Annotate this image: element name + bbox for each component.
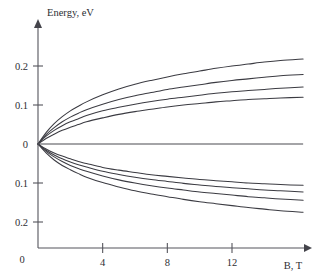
- y-tick-label-0.1: 0.1: [15, 100, 28, 111]
- y-tick-label-0.2: 0.2: [15, 61, 28, 72]
- x-tick-label-8: 8: [165, 257, 170, 268]
- curves-group: [38, 59, 303, 212]
- y-axis-title: Energy, eV: [47, 7, 94, 18]
- tick-labels-group: 048120.20.100.10.2: [15, 61, 237, 268]
- chart-canvas: 048120.20.100.10.2 Energy, eV B, T: [0, 0, 334, 280]
- x-axis-arrow-icon: [304, 244, 312, 252]
- x-tick-label-4: 4: [100, 257, 106, 268]
- curve-branch-up-4: [38, 97, 303, 144]
- curve-branch-down-3: [38, 144, 303, 200]
- zeeman-splitting-chart: 048120.20.100.10.2 Energy, eV B, T: [0, 0, 334, 280]
- x-axis-title: B, T: [284, 260, 303, 271]
- y-tick-label--0.1: 0.1: [15, 178, 28, 189]
- curve-branch-down-4: [38, 144, 303, 212]
- curve-branch-up-2: [38, 75, 303, 144]
- y-tick-label-0: 0: [23, 139, 28, 150]
- y-axis-arrow-icon: [34, 19, 42, 28]
- x-tick-label-12: 12: [227, 257, 238, 268]
- y-tick-label--0.2: 0.2: [15, 217, 28, 228]
- x-tick-label-0: 0: [19, 254, 24, 265]
- curve-branch-up-1: [38, 59, 303, 144]
- axes-group: [34, 19, 312, 252]
- curve-branch-up-3: [38, 87, 303, 144]
